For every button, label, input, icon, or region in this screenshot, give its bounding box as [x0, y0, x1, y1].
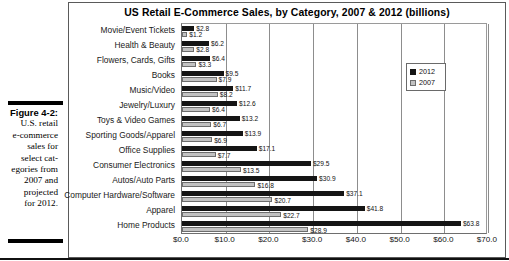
value-label-2007: $3.3: [198, 61, 211, 68]
chart-legend: 2012 2007: [406, 63, 446, 91]
gridline: [357, 24, 358, 233]
bar-2007: [182, 167, 241, 172]
bar-2012: [182, 191, 344, 196]
legend-item-2012: 2012: [410, 66, 442, 77]
bar-2012: [182, 206, 365, 211]
value-label-2007: $6.9: [214, 137, 227, 144]
caption-line: 2007 and: [0, 175, 58, 186]
bar-2007: [182, 182, 255, 187]
page-bottom-rule: [0, 258, 509, 260]
value-label-2007: $22.7: [283, 212, 300, 219]
bar-2012: [182, 146, 257, 151]
x-tick-label: $0.0: [173, 235, 189, 244]
value-label-2007: $6.4: [212, 106, 225, 113]
category-label: Flowers, Cards, Gifts: [97, 56, 175, 65]
caption-line: egories from: [0, 164, 58, 175]
figure-number: Figure 4-2:: [0, 107, 58, 118]
x-tick-label: $10.0: [215, 235, 235, 244]
value-label-2007: $28.9: [310, 227, 327, 234]
caption-line: U.S. retail: [0, 118, 58, 129]
value-label-2007: $6.7: [213, 121, 226, 128]
x-tick-label: $70.0: [477, 235, 497, 244]
value-label-2012: $63.8: [463, 220, 480, 227]
legend-item-2007: 2007: [410, 77, 442, 88]
category-axis-labels: Movie/Event TicketsHealth & BeautyFlower…: [71, 23, 179, 234]
chart-frame: US Retail E-Commerce Sales, by Category,…: [68, 2, 506, 258]
caption-line: select cat-: [0, 153, 58, 164]
bar-2012: [182, 161, 311, 166]
legend-label-2012: 2012: [419, 67, 435, 76]
category-label: Office Supplies: [119, 146, 175, 155]
bar-2007: [182, 122, 211, 127]
category-label: Autos/Auto Parts: [112, 176, 175, 185]
value-label-2012: $29.5: [313, 160, 330, 167]
legend-swatch-2007: [410, 80, 416, 86]
value-label-2012: $11.7: [235, 85, 251, 92]
value-label-2012: $6.2: [211, 40, 224, 47]
figure-container: Figure 4-2: U.S. retaile-commercesales f…: [0, 0, 509, 261]
value-label-2007: $13.5: [243, 167, 260, 174]
bar-2007: [182, 107, 210, 112]
category-label: Books: [152, 71, 175, 80]
category-label: Jewelry/Luxury: [119, 101, 175, 110]
x-tick-label: $20.0: [258, 235, 278, 244]
bar-2012: [182, 176, 317, 181]
plot-area: $2.8$1.2$6.2$2.8$6.4$3.3$9.5$7.9$11.7$8.…: [181, 23, 487, 234]
value-label-2007: $7.7: [218, 152, 231, 159]
category-label: Movie/Event Tickets: [101, 26, 175, 35]
bar-2007: [182, 137, 212, 142]
bar-2007: [182, 62, 196, 67]
x-tick-label: $40.0: [346, 235, 366, 244]
value-label-2012: $37.1: [346, 190, 363, 197]
bar-2007: [182, 47, 194, 52]
caption-text: Figure 4-2: U.S. retaile-commercesales f…: [0, 107, 58, 210]
bar-2012: [182, 221, 461, 226]
value-label-2007: $16.8: [257, 182, 274, 189]
category-label: Music/Video: [130, 86, 175, 95]
gridline: [444, 24, 445, 233]
value-label-2012: $12.6: [239, 100, 256, 107]
bar-2012: [182, 101, 237, 106]
category-label: Sporting Goods/Apparel: [86, 131, 175, 140]
category-label: Computer Hardware/Software: [64, 191, 175, 200]
caption-line: sales for: [0, 141, 58, 152]
bar-2012: [182, 56, 210, 61]
bar-2007: [182, 197, 272, 202]
category-label: Apparel: [146, 206, 175, 215]
bar-2012: [182, 86, 233, 91]
value-label-2007: $1.2: [189, 31, 202, 38]
value-label-2012: $13.9: [245, 130, 262, 137]
bar-2007: [182, 77, 217, 82]
value-label-2012: $6.4: [212, 55, 225, 62]
value-label-2007: $20.7: [274, 197, 291, 204]
category-label: Health & Beauty: [114, 41, 175, 50]
gridline: [401, 24, 402, 233]
category-label: Home Products: [117, 221, 175, 230]
caption-line: projected: [0, 187, 58, 198]
chart-title: US Retail E-Commerce Sales, by Category,…: [69, 7, 505, 18]
value-label-2012: $17.1: [259, 145, 276, 152]
x-axis-ticks: $0.0$10.0$20.0$30.0$40.0$50.0$60.0$70.0: [181, 235, 487, 249]
value-label-2007: $2.8: [196, 46, 209, 53]
x-tick-label: $30.0: [302, 235, 322, 244]
value-label-2007: $7.9: [219, 76, 232, 83]
caption-rule-top: [8, 101, 63, 105]
x-tick-label: $60.0: [433, 235, 453, 244]
bar-2007: [182, 212, 281, 217]
category-label: Consumer Electronics: [93, 161, 175, 170]
caption-line: e-commerce: [0, 130, 58, 141]
value-label-2012: $41.8: [367, 205, 384, 212]
bar-2012: [182, 131, 243, 136]
legend-label-2007: 2007: [419, 78, 435, 87]
gridline: [313, 24, 314, 233]
caption-line: for 2012.: [0, 198, 58, 209]
value-label-2012: $30.9: [319, 175, 336, 182]
x-tick-label: $50.0: [389, 235, 409, 244]
bar-2007: [182, 227, 308, 232]
bar-2007: [182, 32, 187, 37]
figure-caption: Figure 4-2: U.S. retaile-commercesales f…: [0, 0, 63, 261]
bar-2012: [182, 116, 240, 121]
caption-rule-bottom: [8, 239, 63, 243]
value-label-2007: $8.2: [220, 91, 233, 98]
category-label: Toys & Video Games: [97, 116, 175, 125]
